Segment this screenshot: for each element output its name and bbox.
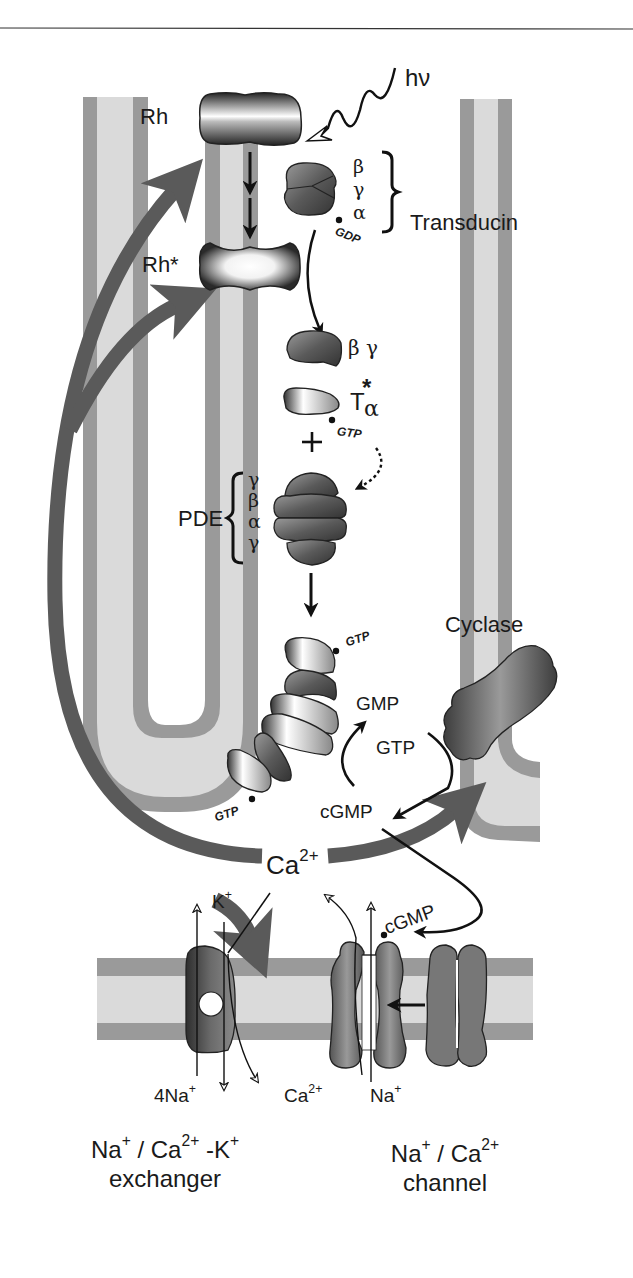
exchanger-ca: / Ca [131, 1136, 182, 1163]
transducin-beta-label: β [353, 157, 364, 176]
gtp-label-t-alpha: GTP [336, 425, 362, 440]
t-alpha-sub: α [364, 398, 379, 420]
channel-caption-line2: channel [370, 1169, 520, 1198]
exchanger-caption-line1: Na+ / Ca2+ -K+ [30, 1136, 300, 1165]
channel-ca-charge: 2+ [481, 1136, 499, 1153]
channel-na-charge: + [422, 1136, 431, 1153]
pde-beta-label: β [248, 491, 259, 510]
transducin-gamma-label: γ [353, 180, 364, 199]
gtp-substrate-label: GTP [376, 738, 415, 757]
calcium-charge: 2+ [299, 846, 318, 865]
calcium-influx-label: Ca2+ [284, 1086, 322, 1105]
sodium-influx-charge: + [394, 1082, 401, 1096]
exchanger-caption-line2: exchanger [30, 1165, 300, 1194]
pde-alpha-label: α [248, 512, 261, 531]
transducin-label: Transducin [410, 212, 518, 234]
exchanger-na-charge: + [122, 1132, 131, 1149]
beta-gamma-label: β γ [348, 338, 378, 358]
exchanger-k-charge: + [230, 1132, 239, 1149]
t-alpha-label: T*α [350, 390, 365, 414]
t-alpha-subunit-icon [284, 388, 339, 423]
dotted-activation-arrow [360, 448, 381, 487]
transducin-icon [284, 163, 342, 223]
rhodopsin-active-icon [200, 243, 300, 290]
cgmp-label: cGMP [320, 802, 373, 821]
pde-icon [274, 473, 346, 565]
channel-caption: Na+ / Ca2+ channel [370, 1140, 520, 1198]
pde-gamma-2-label: γ [248, 533, 259, 552]
light-wave-icon [307, 68, 395, 141]
pde-gamma-1-label: γ [248, 470, 259, 489]
sodium-4-base: 4Na [154, 1085, 189, 1106]
beta-gamma-subunit-icon [287, 331, 341, 366]
exchanger-caption: Na+ / Ca2+ -K+ exchanger [30, 1136, 300, 1194]
exchanger-na: Na [91, 1136, 122, 1163]
rh-active-label: Rh* [142, 254, 179, 276]
exchanger-k: -K [199, 1136, 230, 1163]
light-label: hν [405, 66, 430, 90]
dissociation-arrow [308, 230, 320, 330]
channel-caption-line1: Na+ / Ca2+ [370, 1140, 520, 1169]
calcium-influx-base: Ca [284, 1085, 308, 1106]
sodium-4-charge: + [189, 1082, 196, 1096]
gmp-label: GMP [356, 694, 399, 713]
sodium-influx-label: Na+ [370, 1086, 402, 1105]
pde-label: PDE [178, 508, 223, 530]
calcium-base: Ca [266, 850, 299, 880]
transducin-alpha-label: α [353, 203, 366, 222]
sodium-4-label: 4Na+ [154, 1086, 196, 1105]
cng-channel-closed-icon [426, 945, 487, 1066]
calcium-label: Ca2+ [266, 852, 319, 878]
plus-icon [302, 432, 322, 452]
cyclase-label: Cyclase [445, 614, 523, 636]
exchanger-ca-charge: 2+ [181, 1132, 199, 1149]
potassium-label: K+ [212, 892, 232, 911]
top-rule [0, 28, 633, 29]
calcium-influx-charge: 2+ [308, 1082, 322, 1096]
channel-na: Na [391, 1140, 422, 1167]
channel-ca: / Ca [431, 1140, 482, 1167]
potassium-base: K [212, 891, 225, 912]
potassium-charge: + [225, 888, 232, 902]
rhodopsin-icon [200, 93, 302, 146]
sodium-influx-base: Na [370, 1085, 394, 1106]
transducin-brace [382, 152, 398, 232]
rh-label: Rh [140, 106, 168, 128]
